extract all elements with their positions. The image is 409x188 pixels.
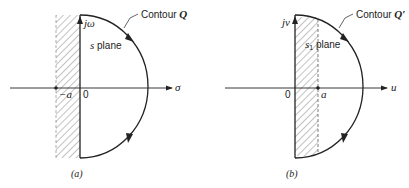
horizontal-axis-label: u	[391, 81, 397, 93]
origin-label: 0	[285, 89, 291, 100]
contour-semicircle	[80, 15, 148, 158]
panel-caption: (a)	[71, 168, 83, 180]
contour-label: Contour Q	[141, 8, 187, 20]
plane-label: s plane	[90, 39, 122, 51]
panel-caption: (b)	[286, 168, 298, 180]
vertical-axis-label: jω	[82, 17, 95, 29]
point-label: a	[321, 88, 327, 100]
contour-leader-line	[124, 14, 138, 28]
contour-diagram: Contour Q jω s plane σ 0 −a (a) Contour …	[0, 0, 409, 188]
point-marker	[54, 86, 58, 90]
point-marker	[316, 86, 320, 90]
point-label: −a	[59, 88, 72, 100]
panel-b: Contour Q′ jv s1 plane u 0 a (b)	[225, 8, 405, 180]
contour-leader-line	[339, 14, 353, 28]
contour-direction-arrow-icon	[126, 133, 133, 143]
panel-a: Contour Q jω s plane σ 0 −a (a)	[10, 8, 187, 180]
vertical-axis-label: jv	[280, 16, 290, 28]
hatched-region	[56, 15, 80, 158]
origin-label: 0	[83, 89, 89, 100]
horizontal-axis-label: σ	[175, 81, 181, 93]
contour-label: Contour Q′	[356, 8, 405, 20]
contour-direction-arrow-icon	[341, 133, 348, 143]
